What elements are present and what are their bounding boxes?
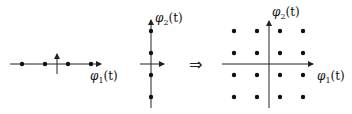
constellation-point	[149, 51, 153, 55]
constellation-point	[20, 62, 24, 66]
panel-phi2-1d: φ2(t)	[140, 11, 183, 108]
constellation-point	[278, 95, 282, 99]
constellation-point	[232, 29, 236, 33]
constellation-point	[255, 95, 259, 99]
constellation-point	[255, 51, 259, 55]
constellation-point	[301, 73, 305, 77]
constellation-point	[301, 95, 305, 99]
constellation-point	[301, 51, 305, 55]
constellation-point	[232, 73, 236, 77]
constellation-diagram: φ1(t) φ2(t) ⇒ φ2(t) φ1(t)	[0, 0, 352, 114]
constellation-point	[255, 29, 259, 33]
constellation-point	[278, 51, 282, 55]
constellation-point	[149, 29, 153, 33]
panel-2d-grid: φ2(t) φ1(t)	[222, 5, 345, 108]
constellation-point	[66, 62, 70, 66]
constellation-point	[232, 51, 236, 55]
phi1-label: φ1(t)	[90, 69, 118, 85]
constellation-point	[149, 95, 153, 99]
grid-phi1-label: φ1(t)	[317, 69, 345, 85]
constellation-point	[149, 73, 153, 77]
constellation-point	[255, 73, 259, 77]
constellation-point	[301, 29, 305, 33]
constellation-point	[43, 62, 47, 66]
grid-phi2-label: φ2(t)	[272, 5, 300, 21]
constellation-point	[232, 95, 236, 99]
constellation-point	[89, 62, 93, 66]
panel-phi1-1d: φ1(t)	[10, 54, 118, 85]
implies-arrow-icon: ⇒	[189, 55, 202, 74]
constellation-point	[278, 29, 282, 33]
constellation-point	[278, 73, 282, 77]
phi2-label: φ2(t)	[155, 11, 183, 27]
